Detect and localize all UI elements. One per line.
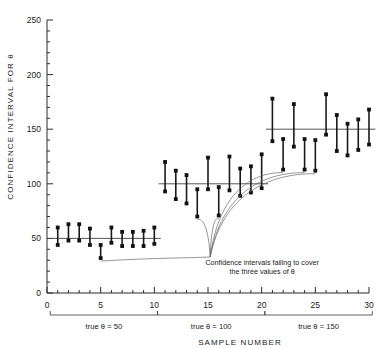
interval-endpoint-marker: [271, 97, 275, 101]
interval-endpoint-marker: [260, 186, 264, 190]
interval-endpoint-marker: [346, 122, 350, 126]
confidence-interval-chart: 050100150200250 051015202530 Confidence …: [0, 0, 391, 348]
x-axis-group: 051015202530: [45, 287, 374, 310]
group-label: true θ = 150: [298, 322, 339, 331]
interval-endpoint-marker: [163, 190, 167, 194]
group-brace: [158, 311, 265, 315]
interval-endpoint-marker: [367, 108, 371, 112]
interval-endpoint-marker: [271, 139, 275, 143]
interval-endpoint-marker: [174, 169, 178, 173]
annotation-text: Confidence intervals failing to cover th…: [205, 258, 319, 276]
interval-endpoint-marker: [303, 137, 307, 141]
x-tick-label: 20: [257, 300, 267, 310]
interval-endpoint-marker: [195, 215, 199, 219]
group-brace: [50, 311, 157, 315]
interval-endpoint-marker: [152, 226, 156, 230]
interval-endpoint-marker: [324, 133, 328, 137]
interval-endpoint-marker: [67, 222, 71, 226]
interval-endpoint-marker: [313, 169, 317, 173]
interval-endpoint-marker: [324, 92, 328, 96]
interval-endpoint-marker: [110, 226, 114, 230]
interval-endpoint-marker: [88, 227, 92, 231]
interval-endpoint-marker: [313, 138, 317, 142]
leader-line: [210, 173, 304, 257]
group-brace: [265, 311, 372, 315]
x-tick-label: 0: [45, 300, 50, 310]
interval-endpoint-marker: [292, 102, 296, 106]
x-axis-tick-labels: 051015202530: [45, 300, 374, 310]
interval-endpoint-marker: [120, 244, 124, 248]
interval-endpoint-marker: [335, 149, 339, 153]
group-label: true θ = 50: [86, 322, 123, 331]
interval-endpoint-marker: [292, 145, 296, 149]
chart-canvas: 050100150200250 051015202530 Confidence …: [0, 0, 391, 348]
leader-line: [197, 219, 210, 257]
group-label-texts: true θ = 50true θ = 100true θ = 150: [86, 322, 339, 331]
y-axis-title: CONFIDENCE INTERVAL FOR θ: [6, 53, 15, 199]
x-axis-title: SAMPLE NUMBER: [198, 338, 282, 347]
interval-endpoint-marker: [346, 154, 350, 158]
x-tick-label: 25: [311, 300, 321, 310]
y-tick-label: 50: [32, 233, 42, 243]
interval-endpoint-marker: [228, 155, 232, 159]
interval-endpoint-marker: [99, 256, 103, 260]
y-tick-label: 200: [27, 70, 41, 80]
interval-endpoint-marker: [67, 239, 71, 243]
interval-endpoint-marker: [56, 243, 60, 247]
x-axis-ticks: [47, 287, 369, 293]
x-tick-label: 10: [150, 300, 160, 310]
y-axis-group: 050100150200250: [27, 15, 53, 298]
interval-endpoint-marker: [174, 197, 178, 201]
interval-endpoint-marker: [249, 164, 253, 168]
interval-endpoint-marker: [281, 168, 285, 172]
interval-endpoint-marker: [77, 239, 81, 243]
y-axis-tick-labels: 050100150200250: [27, 15, 41, 298]
y-tick-label: 0: [36, 288, 41, 298]
interval-endpoint-marker: [88, 243, 92, 247]
interval-endpoint-marker: [110, 241, 114, 245]
interval-endpoint-marker: [195, 187, 199, 191]
group-label: true θ = 100: [191, 322, 232, 331]
interval-endpoint-marker: [217, 185, 221, 189]
interval-endpoint-marker: [185, 202, 189, 206]
leader-line: [210, 174, 315, 257]
interval-endpoint-marker: [142, 229, 146, 233]
interval-endpoint-marker: [303, 168, 307, 172]
interval-endpoint-marker: [228, 188, 232, 192]
annotation-line-2: the three values of θ: [230, 267, 295, 276]
interval-endpoint-marker: [163, 160, 167, 164]
interval-endpoint-marker: [185, 173, 189, 177]
interval-endpoint-marker: [131, 230, 135, 234]
group-braces: [50, 311, 372, 315]
interval-endpoint-marker: [238, 167, 242, 171]
leader-line: [101, 257, 210, 261]
annotation-line-1: Confidence intervals failing to cover: [205, 258, 319, 267]
interval-endpoint-marker: [99, 243, 103, 247]
x-tick-label: 5: [98, 300, 103, 310]
interval-endpoint-marker: [152, 242, 156, 246]
confidence-interval-series: [56, 92, 371, 260]
interval-endpoint-marker: [56, 226, 60, 230]
interval-endpoint-marker: [120, 230, 124, 234]
y-tick-label: 150: [27, 124, 41, 134]
interval-endpoint-marker: [281, 137, 285, 141]
interval-endpoint-marker: [206, 156, 210, 160]
x-tick-label: 15: [203, 300, 213, 310]
leader-line: [210, 173, 283, 257]
y-axis-ticks: [47, 20, 53, 293]
interval-endpoint-marker: [142, 244, 146, 248]
interval-endpoint-marker: [206, 187, 210, 191]
interval-endpoint-marker: [335, 113, 339, 117]
true-theta-reference-lines: [51, 129, 375, 238]
y-tick-label: 100: [27, 179, 41, 189]
interval-endpoint-marker: [367, 143, 371, 147]
interval-endpoint-marker: [356, 117, 360, 121]
interval-endpoint-marker: [131, 244, 135, 248]
y-tick-label: 250: [27, 15, 41, 25]
interval-endpoint-marker: [260, 152, 264, 156]
x-tick-label: 30: [364, 300, 374, 310]
interval-endpoint-marker: [356, 148, 360, 152]
interval-endpoint-marker: [217, 214, 221, 218]
interval-endpoint-marker: [77, 222, 81, 226]
